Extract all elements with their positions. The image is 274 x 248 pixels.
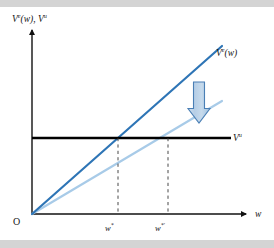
figure-root: Ve(w), Vu Ve(w) Vu O w* w*' w <box>0 0 274 248</box>
series-label-ve: Ve(w) <box>216 47 237 59</box>
series-line-ve <box>32 46 222 214</box>
y-axis-label-sup2: u <box>44 12 47 19</box>
origin-label: O <box>13 217 20 227</box>
x-axis-label: w <box>255 210 261 220</box>
chart-canvas <box>0 0 274 248</box>
series-label-ve-arg: (w) <box>225 48 238 58</box>
series-label-vu-sup: u <box>239 131 242 138</box>
series-label-vu: Vu <box>233 132 242 144</box>
y-axis-label: Ve(w), Vu <box>12 13 47 25</box>
tick-label-w-star-prime-sup: *' <box>161 222 165 228</box>
tick-label-w-star-sup: * <box>111 222 114 228</box>
tick-label-w-star: w* <box>105 223 113 232</box>
shift-arrow-icon <box>188 82 210 123</box>
tick-label-w-star-prime: w*' <box>155 223 165 232</box>
series-line-ve-shifted <box>32 101 222 214</box>
y-axis-label-arg1: (w) <box>21 14 34 24</box>
